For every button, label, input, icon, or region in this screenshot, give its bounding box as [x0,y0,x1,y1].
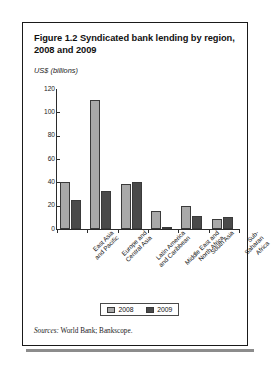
y-axis-tick-label: 100 [35,108,55,115]
bar-group [178,89,208,229]
y-axis-unit-label: US$ (billions) [34,66,78,75]
bar-2009[interactable] [223,217,233,229]
legend-swatch-2009 [146,307,154,313]
sources-label: Sources: [34,327,59,335]
sources-value: World Bank; Bankscope. [59,327,133,335]
chart-legend: 20082009 [100,303,179,316]
bar-group [118,89,148,229]
legend-swatch-2008 [107,307,115,313]
figure-panel: Figure 1.2 Syndicated bank lending by re… [22,22,248,346]
sources-note: Sources: World Bank; Bankscope. [34,327,132,335]
figure-title: Figure 1.2 Syndicated bank lending by re… [34,32,236,56]
y-axis-tick-label: 20 [35,201,55,208]
bar-group [57,89,87,229]
legend-item-2008[interactable]: 2008 [107,306,134,313]
bar-2008[interactable] [212,219,222,230]
x-axis-label-6: Sub-Saharan Africa [237,229,270,262]
bar-2008[interactable] [151,211,161,229]
figure-shadow [26,349,254,352]
bar-2009[interactable] [101,191,111,230]
y-axis-tick-label: 80 [35,131,55,138]
y-axis-tick-label: 60 [35,155,55,162]
x-axis-label-1: East Asia and Pacific [88,229,120,261]
legend-label: 2008 [119,306,134,313]
bar-2009[interactable] [71,200,81,229]
y-axis-tick-label: 120 [35,85,55,92]
plot-area: 020406080100120 [34,81,240,241]
bar-group [209,89,239,229]
bar-2008[interactable] [181,206,191,229]
bar-2008[interactable] [121,184,131,229]
x-axis-label-2: Europe and Central Asia [119,229,153,263]
bars-layer [57,89,239,229]
x-axis-category-labels: East Asia and PacificEurope and Central … [34,229,240,291]
bar-2008[interactable] [90,100,100,230]
bar-2009[interactable] [132,182,142,229]
bar-group [148,89,178,229]
bar-2009[interactable] [192,216,202,229]
bar-2008[interactable] [60,182,70,229]
bar-group [87,89,117,229]
y-axis-tick-label: 40 [35,178,55,185]
legend-item-2009[interactable]: 2009 [146,306,173,313]
legend-label: 2009 [157,306,172,313]
